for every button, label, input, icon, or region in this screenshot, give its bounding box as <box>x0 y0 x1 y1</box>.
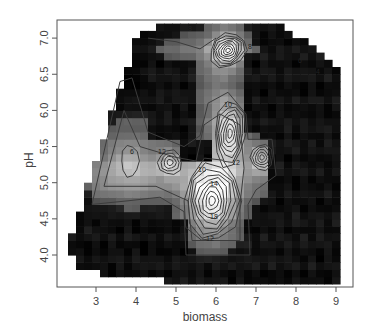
heatmap-cell <box>140 168 149 176</box>
heatmap-cell <box>244 277 253 285</box>
heatmap-cell <box>252 45 261 53</box>
heatmap-cell <box>140 96 149 104</box>
heatmap-cell <box>332 103 341 111</box>
heatmap-cell <box>148 53 157 61</box>
heatmap-cell <box>108 233 117 241</box>
heatmap-cell <box>156 212 165 220</box>
heatmap-cell <box>308 270 317 278</box>
heatmap-cell <box>276 197 285 205</box>
heatmap-cell <box>140 89 149 97</box>
heatmap-cell <box>124 96 133 104</box>
heatmap-cell <box>220 262 229 270</box>
heatmap-cell <box>284 139 293 147</box>
contour-heatmap-chart: 6121010141812886412 3456789 4.04.55.05.5… <box>0 0 372 336</box>
heatmap-cell <box>292 103 301 111</box>
contour-label: 10 <box>224 101 232 108</box>
heatmap-cell <box>268 248 277 256</box>
heatmap-cell <box>292 183 301 191</box>
heatmap-cell <box>308 241 317 249</box>
heatmap-cell <box>316 139 325 147</box>
heatmap-cell <box>244 82 253 90</box>
heatmap-cell <box>172 262 181 270</box>
heatmap-cell <box>292 139 301 147</box>
contour-label: 18 <box>210 213 218 220</box>
y-tick-label: 7.0 <box>38 30 50 45</box>
heatmap-cell <box>156 45 165 53</box>
heatmap-cell <box>180 82 189 90</box>
heatmap-cell <box>244 31 253 39</box>
heatmap-cell <box>204 74 213 82</box>
heatmap-cell <box>140 212 149 220</box>
heatmap-cell <box>172 89 181 97</box>
heatmap-cell <box>292 147 301 155</box>
heatmap-cell <box>268 74 277 82</box>
heatmap-cell <box>292 125 301 133</box>
heatmap-cell <box>292 168 301 176</box>
heatmap-cell <box>252 38 261 46</box>
heatmap-cell <box>172 219 181 227</box>
contour-label: 12 <box>232 159 240 166</box>
heatmap-cell <box>260 197 269 205</box>
heatmap-cell <box>148 219 157 227</box>
heatmap-cell <box>324 233 333 241</box>
heatmap-cell <box>148 89 157 97</box>
heatmap-cell <box>300 96 309 104</box>
heatmap-cell <box>292 74 301 82</box>
heatmap-cell <box>108 168 117 176</box>
heatmap-cell <box>284 45 293 53</box>
heatmap-cell <box>148 233 157 241</box>
heatmap-cell <box>300 38 309 46</box>
heatmap-cell <box>116 233 125 241</box>
heatmap-cell <box>276 53 285 61</box>
heatmap-cell <box>324 161 333 169</box>
heatmap-cell <box>324 82 333 90</box>
heatmap-cell <box>116 103 125 111</box>
heatmap-cell <box>324 110 333 118</box>
heatmap-cell <box>332 67 341 75</box>
heatmap-cell <box>92 219 101 227</box>
heatmap-cell <box>132 270 141 278</box>
y-tick-label: 6.0 <box>38 103 50 118</box>
heatmap-cell <box>268 89 277 97</box>
heatmap-cell <box>324 241 333 249</box>
heatmap-cell <box>172 96 181 104</box>
heatmap-cell <box>84 226 93 234</box>
heatmap-cell <box>236 270 245 278</box>
heatmap-cell <box>300 233 309 241</box>
heatmap-cell <box>316 262 325 270</box>
heatmap-cell <box>284 89 293 97</box>
heatmap-cell <box>292 82 301 90</box>
heatmap-cell <box>124 82 133 90</box>
contour-label: 8 <box>188 25 192 32</box>
heatmap-cell <box>284 226 293 234</box>
heatmap-cell <box>148 82 157 90</box>
heatmap-cell <box>300 147 309 155</box>
heatmap-cell <box>196 31 205 39</box>
heatmap-cell <box>300 161 309 169</box>
heatmap-cell <box>276 96 285 104</box>
heatmap-cell <box>164 277 173 285</box>
heatmap-cell <box>308 248 317 256</box>
heatmap-cell <box>300 241 309 249</box>
heatmap-cell <box>148 161 157 169</box>
heatmap-cell <box>300 103 309 111</box>
heatmap-cell <box>156 219 165 227</box>
heatmap-cell <box>292 270 301 278</box>
heatmap-cell <box>284 212 293 220</box>
heatmap-cell <box>276 270 285 278</box>
heatmap-cell <box>148 176 157 184</box>
heatmap-cell <box>300 74 309 82</box>
heatmap-cell <box>284 197 293 205</box>
heatmap-cell <box>140 204 149 212</box>
heatmap-cell <box>260 60 269 68</box>
heatmap-cell <box>140 270 149 278</box>
heatmap-cell <box>220 248 229 256</box>
heatmap-cell <box>180 132 189 140</box>
heatmap-cell <box>260 190 269 198</box>
heatmap-cell <box>268 118 277 126</box>
heatmap-cell <box>252 103 261 111</box>
heatmap-cell <box>236 67 245 75</box>
heatmap-cell <box>308 183 317 191</box>
heatmap-cell <box>108 132 117 140</box>
heatmap-cell <box>220 241 229 249</box>
